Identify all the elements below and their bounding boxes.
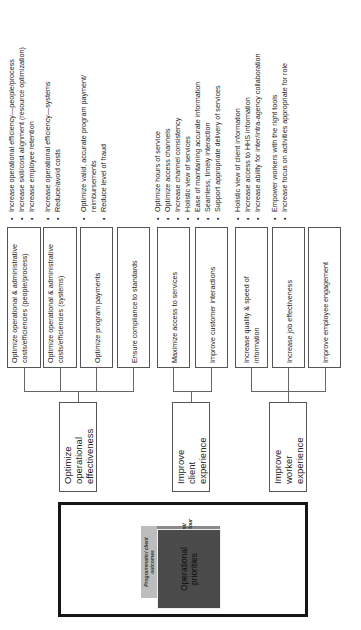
objective-box: Increase job effectiveness: [272, 227, 305, 368]
objective-label: Optimize operational & administrative co…: [46, 244, 65, 363]
objective-label: Optimize operational & administrative co…: [10, 244, 29, 363]
objective-label: Optimize program payments: [93, 273, 103, 363]
connector: [24, 368, 25, 392]
bullet-item: •Increase ability for inter/intra-agency…: [253, 53, 263, 220]
bullet-item: •Reduce/avoid costs: [53, 149, 63, 220]
bullet-item: •Reduce level of fraud: [99, 144, 109, 220]
cube-side-face: Programmatic/ client outcomes: [141, 526, 157, 598]
bullet-group: •Optimize valid, accurate program paymen…: [79, 5, 119, 220]
bullet-item: •Holistic view of services: [183, 136, 193, 220]
bullet-item: •Empower workers with the right tools: [270, 95, 280, 220]
bullet-item: •Increase operational efficiency—systems: [43, 81, 53, 220]
bullet-group: •Increase operational efficiency—systems…: [43, 5, 73, 220]
objective-box: Ensure compliance to standards: [117, 227, 150, 368]
priority-label: Improve client experience: [175, 434, 208, 484]
bullet-item: •Increase employee retention: [27, 121, 37, 220]
connector: [60, 368, 61, 392]
bullet-item: •Support appropriate delivery of service…: [213, 85, 223, 220]
objective-label: Ensure compliance to standards: [130, 260, 140, 363]
objective-box: Optimize program payments: [80, 227, 113, 368]
bullet-item: •Optimize access channels: [163, 129, 173, 221]
objective-label: Increase quality & speed of information: [242, 263, 261, 363]
connector: [288, 368, 289, 392]
objective-label: Increase job effectiveness: [285, 280, 295, 363]
priority-box-operational: Optimize operational effectiveness: [59, 402, 97, 492]
priority-box-client: Improve client experience: [172, 402, 210, 492]
connector: [251, 368, 252, 392]
objective-box: Increase quality & speed of information: [235, 227, 268, 368]
cube-frame: Programmatic/ client outcomes Client/ be…: [58, 502, 308, 617]
connector: [133, 368, 134, 392]
connector: [288, 392, 289, 402]
bullet-item: •Increase skill/cost alignment (resource…: [17, 47, 27, 220]
bullet-item: •Optimize valid, accurate program paymen…: [79, 75, 89, 220]
bullet-item: •Optimize hours of service: [153, 131, 163, 220]
bullet-item: •Increase operational efficiency—people/…: [7, 59, 17, 220]
priority-box-worker: Improve worker experience: [269, 402, 307, 492]
connector: [325, 368, 326, 392]
objective-box: Improve customer interactions: [195, 227, 228, 368]
bullet-group: •Holistic view of client information •In…: [233, 5, 263, 220]
connector-bus: [173, 391, 211, 392]
objective-label: Improve employee engagement: [321, 262, 331, 363]
bullet-item: •Increase channel consistency: [173, 118, 183, 220]
connector: [173, 368, 174, 392]
bullet-item: •Holistic view of client information: [233, 108, 243, 220]
cube-front-label: Operational priorities: [179, 545, 199, 593]
bullet-group: •Empower workers with the right tools •I…: [270, 5, 290, 220]
objective-box: Optimize operational & administrative co…: [7, 227, 41, 368]
priority-label: Optimize operational effectiveness: [62, 414, 95, 484]
objective-label: Maximize access to services: [170, 272, 180, 363]
objective-box: Improve employee engagement: [308, 227, 341, 368]
bullet-group: •Optimize hours of service •Optimize acc…: [153, 5, 193, 220]
cube-side-label: Programmatic/ client outcomes: [141, 526, 155, 598]
bullet-item: •Ease of maintaining accurate informatio…: [193, 82, 203, 220]
bullet-item-continued: reimbursements: [89, 160, 99, 220]
bullet-group: •Increase operational efficiency—people/…: [7, 5, 47, 220]
objective-label: Improve customer interactions: [208, 267, 218, 363]
objective-box: Optimize operational & administrative co…: [43, 227, 77, 368]
connector: [211, 368, 212, 392]
priority-label: Improve worker experience: [272, 434, 305, 484]
diagram-canvas: Programmatic/ client outcomes Client/ be…: [0, 0, 361, 630]
bullet-item: •Seamless, timely interaction: [203, 123, 213, 220]
objective-box: Maximize access to services: [157, 227, 190, 368]
connector: [191, 392, 192, 402]
connector: [96, 368, 97, 392]
connector-bus: [24, 391, 134, 392]
cube-front-face: Operational priorities: [157, 529, 221, 609]
bullet-group: •Ease of maintaining accurate informatio…: [193, 5, 223, 220]
bullet-item: •Increase access to HHS information: [243, 97, 253, 220]
connector: [78, 392, 79, 402]
bullet-item: •Increase focus on activities appropriat…: [280, 63, 290, 220]
